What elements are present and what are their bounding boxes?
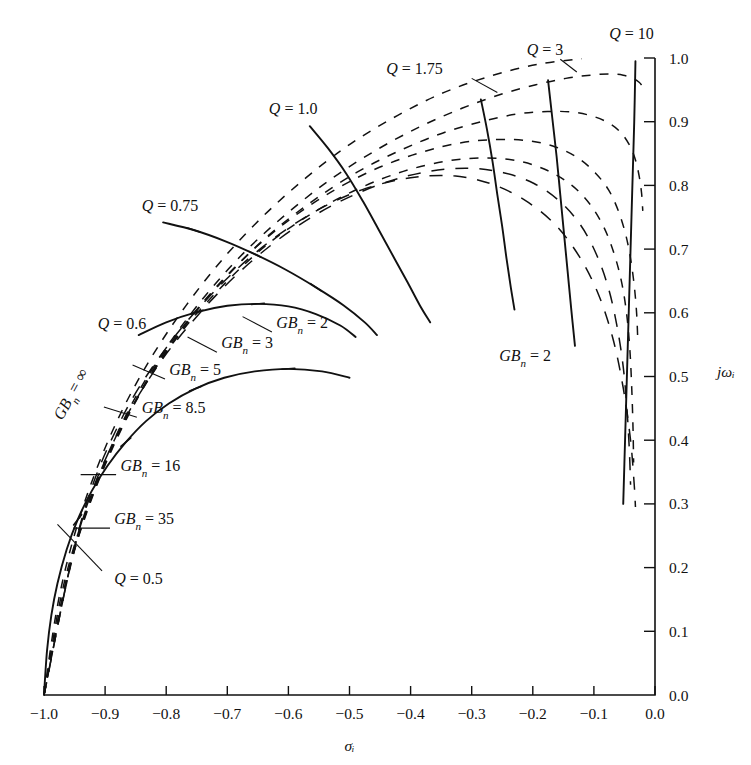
annotation-leader-line <box>188 337 217 352</box>
curve-label-q-1-75: Q = 1.75 <box>386 60 443 77</box>
x-tick-label: −0.3 <box>458 705 486 722</box>
label-symbol: Q <box>386 60 398 77</box>
x-tick-label: −0.2 <box>519 705 547 722</box>
curve-label-gb-2: GBn = 2 <box>276 314 328 336</box>
curve-gb-n-5 <box>44 158 634 695</box>
label-symbol: Q <box>142 197 154 214</box>
curve-label-gb-8-5: GBn = 8.5 <box>142 399 206 421</box>
q-curve-tickmark <box>188 228 200 232</box>
curve-gb-n <box>44 59 582 695</box>
curve-label-q-0-5: Q = 0.5 <box>114 570 163 587</box>
curve-label-gb-2-right: GBn = 2 <box>499 347 551 369</box>
label-symbol: Q <box>98 315 110 332</box>
y-axis-title: jωᵢ <box>715 363 735 380</box>
curve-label-gb-3: GBn = 3 <box>221 334 273 356</box>
curve-gb-n-8.5 <box>44 139 638 695</box>
y-tick-label: 0.1 <box>669 623 688 640</box>
label-value: = 0.5 <box>126 570 163 587</box>
q-curve-tickmark <box>190 386 202 391</box>
x-tick-label: −0.8 <box>152 705 180 722</box>
axis-frame <box>44 58 655 695</box>
y-tick-label: 0.5 <box>669 368 689 385</box>
curve-label-gb-5: GBn = 5 <box>169 361 221 383</box>
curve-label-q-10: Q = 10 <box>609 25 654 42</box>
plot-canvas: −1.0−0.9−0.8−0.7−0.6−0.5−0.4−0.3−0.2−0.1… <box>0 0 751 765</box>
label-value: = 3 <box>538 41 563 58</box>
curve-gb-n-3 <box>44 168 631 695</box>
annotation-leader-line <box>243 317 272 332</box>
label-symbol: GB <box>221 334 243 351</box>
label-symbol: GB <box>120 457 142 474</box>
y-tick-label: 0.6 <box>669 304 689 321</box>
x-tick-label: −0.9 <box>91 705 119 722</box>
label-value: = 1.0 <box>280 100 317 117</box>
label-value: = 2 <box>526 347 551 364</box>
label-value: = 35 <box>141 510 174 527</box>
label-symbol: GB <box>499 347 521 364</box>
x-tick-label: −0.6 <box>274 705 302 722</box>
q-curve-tickmark <box>251 303 264 304</box>
curve-q-1.75 <box>481 99 515 309</box>
axis-ticks-layer <box>44 58 655 695</box>
label-value: = 10 <box>621 25 654 42</box>
axes-layer <box>44 58 655 695</box>
curve-label-gb-inf: GBn = ∞ <box>50 366 95 425</box>
label-value: = 0.6 <box>109 315 146 332</box>
y-tick-label: 0.4 <box>669 432 689 449</box>
curve-label-q-0-75: Q = 0.75 <box>142 197 199 214</box>
label-symbol: GB <box>142 399 164 416</box>
label-symbol: Q <box>269 100 281 117</box>
curve-label-q-0-6: Q = 0.6 <box>98 315 147 332</box>
x-tick-label: −1.0 <box>30 705 58 722</box>
label-symbol: Q <box>527 41 539 58</box>
annotation-leader-line <box>133 365 165 379</box>
curve-q-0.5 <box>44 369 350 695</box>
axis-tick-labels-layer: −1.0−0.9−0.8−0.7−0.6−0.5−0.4−0.3−0.2−0.1… <box>30 50 689 723</box>
curve-label-gb-16: GBn = 16 <box>120 457 180 479</box>
y-tick-label: 0.0 <box>669 687 689 704</box>
annotation-leader-line <box>560 59 577 72</box>
x-tick-label: −0.7 <box>213 705 241 722</box>
curve-label-q-1-0: Q = 1.0 <box>269 100 318 117</box>
curve-label-q-3: Q = 3 <box>527 41 564 58</box>
label-value: = 2 <box>303 314 328 331</box>
y-tick-label: 0.3 <box>669 495 689 512</box>
y-tick-label: 0.9 <box>669 113 689 130</box>
label-symbol: Q <box>609 25 621 42</box>
y-tick-label: 0.7 <box>669 241 689 258</box>
y-tick-label: 0.2 <box>669 559 688 576</box>
x-tick-label: −0.4 <box>397 705 425 722</box>
pole-position-chart: −1.0−0.9−0.8−0.7−0.6−0.5−0.4−0.3−0.2−0.1… <box>0 0 751 765</box>
label-value: = ∞ <box>63 366 91 399</box>
annotation-leader-line <box>472 78 498 92</box>
label-symbol: Q <box>114 570 126 587</box>
q-curve-tickmark <box>249 251 261 257</box>
label-value: = 1.75 <box>398 60 443 77</box>
x-tick-label: −0.1 <box>580 705 608 722</box>
label-symbol: GB <box>114 510 136 527</box>
x-tick-label: −0.5 <box>335 705 363 722</box>
y-tick-label: 1.0 <box>669 50 689 67</box>
label-value: = 16 <box>147 457 180 474</box>
label-value: = 3 <box>248 334 273 351</box>
y-tick-label: 0.8 <box>669 177 689 194</box>
x-axis-title: σᵢ <box>344 737 354 754</box>
q-curve-tickmark <box>282 368 295 369</box>
label-symbol: GB <box>169 361 191 378</box>
q-curve-tickmark <box>311 284 322 291</box>
label-value: = 8.5 <box>169 399 206 416</box>
curves-layer <box>44 59 643 695</box>
curve-annotations-layer: Q = 0.5GBn = 35GBn = 16GBn = 8.5GBn = 5G… <box>50 25 654 587</box>
label-value: = 0.75 <box>153 197 198 214</box>
q-curve-tickmark <box>121 438 131 446</box>
curve-label-gb-35: GBn = 35 <box>114 510 174 532</box>
curve-gb-n-35 <box>44 74 643 695</box>
x-tick-label: 0.0 <box>645 705 665 722</box>
label-value: = 5 <box>196 361 221 378</box>
label-symbol: GB <box>276 314 298 331</box>
